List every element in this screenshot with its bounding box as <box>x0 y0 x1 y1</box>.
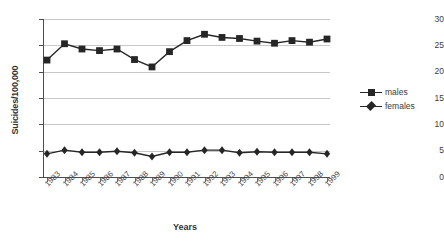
y-tick-mark <box>39 45 43 46</box>
data-point-marker <box>149 152 155 160</box>
data-point-marker <box>236 149 242 157</box>
series-males <box>44 31 331 70</box>
y-tick-label: 20 <box>418 67 444 76</box>
series-females <box>44 146 330 160</box>
data-point-marker <box>79 148 85 156</box>
legend-item-males[interactable]: males <box>360 85 440 99</box>
data-point-marker <box>201 31 208 38</box>
data-point-marker <box>289 37 296 44</box>
data-point-marker <box>79 46 86 53</box>
data-point-marker <box>306 39 313 46</box>
legend-marker <box>368 89 375 96</box>
data-point-marker <box>114 147 120 155</box>
data-point-marker <box>131 149 137 157</box>
data-point-marker <box>61 40 68 47</box>
legend-marker <box>366 101 376 111</box>
legend-label: males <box>385 87 408 97</box>
y-tick-mark <box>39 124 43 125</box>
data-point-marker <box>61 146 67 154</box>
data-point-marker <box>166 148 172 156</box>
data-point-marker <box>324 150 330 158</box>
chart-legend: malesfemales <box>360 85 440 113</box>
data-point-marker <box>289 148 295 156</box>
data-point-marker <box>96 47 103 54</box>
data-point-marker <box>219 146 225 154</box>
plot-area <box>44 19 330 177</box>
data-point-marker <box>149 64 156 71</box>
data-point-marker <box>254 38 261 45</box>
y-tick-mark <box>39 151 43 152</box>
data-point-marker <box>166 48 173 55</box>
data-point-marker <box>131 56 138 63</box>
legend-diamond-icon <box>360 100 382 112</box>
y-tick-mark <box>39 19 43 20</box>
y-tick-label: 25 <box>418 41 444 50</box>
data-series-layer <box>44 19 330 177</box>
y-axis-title: Suicides/100,000 <box>8 10 22 190</box>
data-point-marker <box>44 150 50 158</box>
legend-square-icon <box>360 86 382 98</box>
data-point-marker <box>271 148 277 156</box>
data-point-marker <box>236 35 243 42</box>
data-point-marker <box>96 148 102 156</box>
data-point-marker <box>201 146 207 154</box>
data-point-marker <box>306 148 312 156</box>
y-tick-mark <box>39 98 43 99</box>
line-chart: Suicides/100,000 051015202530 1983198419… <box>0 0 444 245</box>
data-point-marker <box>114 46 121 53</box>
data-point-marker <box>271 40 278 47</box>
data-point-marker <box>254 148 260 156</box>
data-point-marker <box>184 37 191 44</box>
legend-item-females[interactable]: females <box>360 99 440 113</box>
y-tick-mark <box>39 177 43 178</box>
data-point-marker <box>324 36 331 43</box>
legend-label: females <box>385 101 415 111</box>
data-point-marker <box>219 34 226 41</box>
y-tick-label: 10 <box>418 120 444 129</box>
x-axis-title: Years <box>40 222 330 232</box>
data-point-marker <box>44 57 51 64</box>
y-tick-mark <box>39 72 43 73</box>
y-tick-label: 0 <box>418 173 444 182</box>
y-tick-label: 30 <box>418 15 444 24</box>
y-tick-label: 5 <box>418 146 444 155</box>
data-point-marker <box>184 148 190 156</box>
